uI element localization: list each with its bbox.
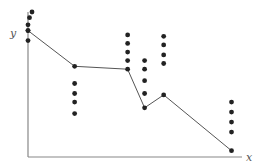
data-point (30, 10, 35, 15)
data-point (161, 42, 166, 47)
data-point (26, 22, 31, 27)
data-point (229, 110, 234, 115)
data-point (142, 105, 147, 110)
data-point (142, 91, 147, 96)
data-point (229, 120, 234, 125)
data-point (72, 81, 77, 86)
data-point (161, 93, 166, 98)
data-point (27, 15, 32, 20)
data-point (26, 38, 31, 43)
scatter-chart: y x (0, 0, 265, 167)
data-points (26, 10, 234, 154)
data-point (125, 50, 130, 55)
data-point (72, 111, 77, 116)
data-point (125, 41, 130, 46)
data-point (229, 100, 234, 105)
trend-line (28, 31, 232, 151)
data-point (125, 58, 130, 63)
x-axis-label: x (246, 151, 253, 164)
data-point (161, 34, 166, 39)
data-point (125, 32, 130, 37)
y-axis-label: y (9, 27, 17, 40)
data-point (229, 130, 234, 135)
data-point (26, 28, 31, 33)
data-point (72, 100, 77, 105)
data-point (142, 58, 147, 63)
data-point (229, 148, 234, 153)
data-point (72, 91, 77, 96)
data-point (161, 53, 166, 58)
data-point (125, 67, 130, 72)
data-point (161, 61, 166, 66)
data-point (142, 78, 147, 83)
data-point (142, 67, 147, 72)
data-point (72, 64, 77, 69)
